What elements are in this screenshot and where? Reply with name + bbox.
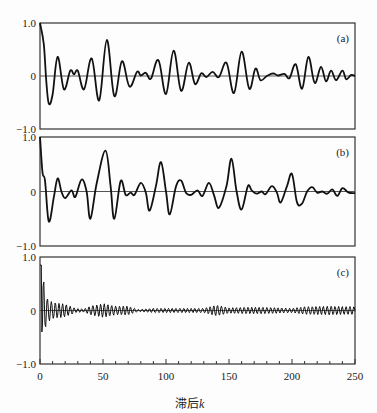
x-tick-label: 100 <box>158 370 175 382</box>
y-tick-label: −1.0 <box>16 358 36 370</box>
panel-c: 1.00−1.0(c)050100150200250 <box>16 251 364 382</box>
panel-label: (b) <box>336 146 349 159</box>
y-tick-label: 1.0 <box>22 131 36 143</box>
panel-b: 1.00−1.0(b) <box>16 131 355 252</box>
x-tick-label: 250 <box>347 370 364 382</box>
x-tick-label: 200 <box>284 370 301 382</box>
acf-curve <box>40 137 355 222</box>
panel-a: 1.00−1.0(a) <box>16 17 355 135</box>
y-tick-label: 0 <box>31 70 37 82</box>
x-axis-label: 滞后k <box>175 394 204 412</box>
acf-curve <box>40 265 355 332</box>
x-axis-label-text: 滞后 <box>175 397 199 411</box>
autocorrelation-figure: 1.00−1.0(a)1.00−1.0(b)1.00−1.0(c)0501001… <box>0 0 377 413</box>
acf-curve <box>40 23 355 104</box>
y-tick-label: 0 <box>31 186 37 198</box>
x-tick-label: 0 <box>37 370 43 382</box>
panel-label: (a) <box>337 32 350 45</box>
y-tick-label: 1.0 <box>22 251 36 263</box>
x-axis-label-variable: k <box>199 397 204 411</box>
y-tick-label: 1.0 <box>22 17 36 29</box>
y-tick-label: 0 <box>31 305 37 317</box>
x-tick-label: 150 <box>221 370 238 382</box>
panel-label: (c) <box>337 266 350 279</box>
x-tick-label: 50 <box>98 370 110 382</box>
